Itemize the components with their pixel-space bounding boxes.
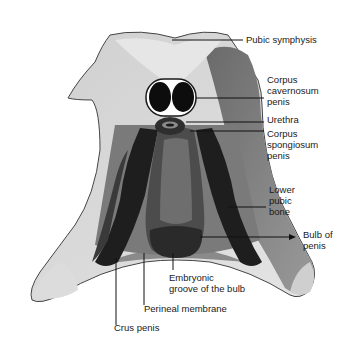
- label-pubic-symphysis: Pubic symphysis: [246, 34, 317, 45]
- label-corpus-cavernosum: Corpus cavernosum penis: [267, 74, 319, 107]
- label-perineal-membrane: Perineal membrane: [144, 303, 227, 314]
- label-bulb-of-penis: Bulb of penis: [303, 229, 333, 251]
- urethra: [155, 117, 185, 135]
- label-embryonic-groove: Embryonic groove of the bulb: [169, 272, 245, 294]
- label-crus-penis: Crus penis: [114, 322, 159, 333]
- label-lower-pubic-bone: Lower pubic bone: [269, 184, 295, 217]
- label-corpus-spongiosum: Corpus spongiosum penis: [267, 128, 318, 161]
- corpus-cavernosum: [146, 79, 196, 116]
- anatomical-illustration: [0, 0, 353, 354]
- label-urethra: Urethra: [267, 114, 299, 125]
